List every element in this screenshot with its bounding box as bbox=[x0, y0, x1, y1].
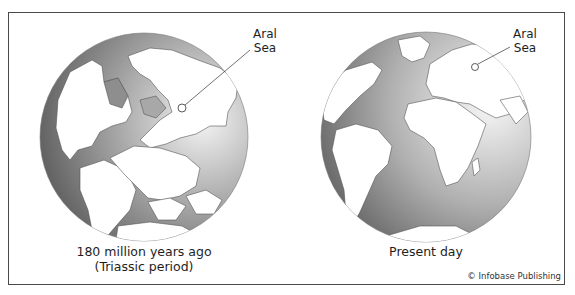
caption-line2: (Triassic period) bbox=[74, 259, 214, 274]
caption-line1: Present day bbox=[366, 244, 486, 259]
copyright-credit: © Infobase Publishing bbox=[467, 271, 561, 281]
globe-triassic bbox=[40, 33, 250, 244]
aral-label-line1: Aral bbox=[508, 27, 542, 41]
aral-label-line2: Sea bbox=[248, 41, 282, 55]
aral-sea-label-present: Aral Sea bbox=[508, 27, 542, 55]
aral-label-line1: Aral bbox=[248, 27, 282, 41]
globe-present-day bbox=[320, 32, 534, 246]
aral-sea-label-past: Aral Sea bbox=[248, 27, 282, 55]
caption-present-day: Present day bbox=[366, 244, 486, 259]
aral-label-line2: Sea bbox=[508, 41, 542, 55]
caption-triassic: 180 million years ago (Triassic period) bbox=[74, 244, 214, 274]
caption-line1: 180 million years ago bbox=[74, 244, 214, 259]
